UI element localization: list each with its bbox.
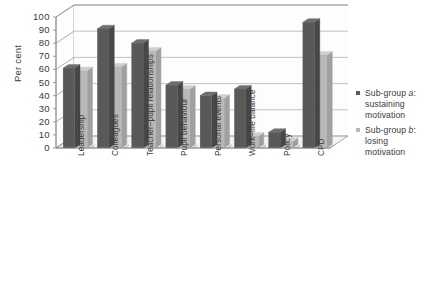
y-axis-tick-label: 30 bbox=[26, 104, 50, 114]
chart-legend: Sub-group a:sustainingmotivationSub-grou… bbox=[356, 88, 442, 161]
y-axis-tick-label: 50 bbox=[26, 78, 50, 88]
y-axis-title: Per cent bbox=[12, 29, 23, 99]
y-axis-tick-label: 100 bbox=[26, 12, 50, 22]
bar-chart: Per cent 0102030405060708090100 Leadersh… bbox=[0, 0, 443, 292]
legend-swatch-icon bbox=[356, 128, 360, 132]
legend-label-prefix: Sub-group bbox=[365, 125, 409, 135]
legend-entry: Sub-group a:sustainingmotivation bbox=[356, 88, 442, 122]
x-axis-category-label: CPD bbox=[317, 138, 326, 156]
legend-label-line2: sustaining bbox=[365, 99, 442, 110]
y-axis-tick-label: 10 bbox=[26, 130, 50, 140]
x-axis-category-label: Colleagues bbox=[111, 114, 120, 156]
legend-label: Sub-group b:losingmotivation bbox=[365, 125, 442, 159]
x-axis-category-label: Pupil behaviour bbox=[180, 98, 189, 156]
y-axis-tick-label: 80 bbox=[26, 38, 50, 48]
y-axis-tick-label: 40 bbox=[26, 91, 50, 101]
x-axis-category-label: Policy bbox=[283, 134, 292, 156]
y-axis-tick-label: 60 bbox=[26, 64, 50, 74]
x-axis-category-label: Leadership bbox=[77, 114, 86, 156]
x-axis-category-label: Work–life balance bbox=[248, 89, 257, 156]
x-axis-category-label: Teacher–pupil relationships bbox=[146, 54, 155, 156]
legend-label-suffix: : bbox=[413, 88, 416, 98]
legend-swatch-icon bbox=[356, 91, 360, 95]
legend-label-line3: motivation bbox=[365, 110, 442, 121]
y-axis-tick-label: 20 bbox=[26, 117, 50, 127]
legend-label: Sub-group a:sustainingmotivation bbox=[365, 88, 442, 122]
y-axis-tick-label: 0 bbox=[26, 143, 50, 153]
y-axis-tick-label: 90 bbox=[26, 25, 50, 35]
legend-label-line2: losing bbox=[365, 136, 442, 147]
legend-label-prefix: Sub-group bbox=[365, 88, 409, 98]
legend-label-suffix: : bbox=[413, 125, 416, 135]
legend-label-line3: motivation bbox=[365, 147, 442, 158]
x-axis-category-label: Personal events bbox=[214, 96, 223, 156]
y-axis-tick-label: 70 bbox=[26, 51, 50, 61]
bar bbox=[303, 19, 320, 148]
legend-entry: Sub-group b:losingmotivation bbox=[356, 125, 442, 159]
